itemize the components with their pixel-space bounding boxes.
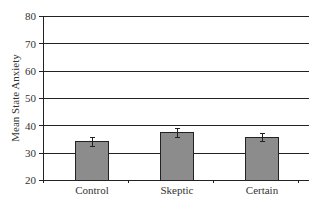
error-bar-cap: [260, 133, 265, 134]
error-bar-skeptic: [177, 128, 178, 136]
y-tick-label-80: 80: [14, 10, 36, 22]
x-tick: [213, 180, 214, 183]
x-tick: [128, 180, 129, 183]
gridline-80: [43, 16, 309, 17]
y-tick-40: [39, 125, 44, 126]
error-bar-cap: [175, 128, 180, 129]
bar-skeptic: [160, 132, 194, 181]
error-bar-cap: [175, 137, 180, 138]
error-bar-cap: [90, 146, 95, 147]
x-tick: [298, 180, 299, 183]
y-tick-80: [39, 16, 44, 17]
y-tick-label-30: 30: [14, 147, 36, 159]
y-tick-label-40: 40: [14, 120, 36, 132]
x-label-skeptic: Skeptic: [137, 184, 217, 196]
y-tick-60: [39, 71, 44, 72]
y-tick-label-20: 20: [14, 174, 36, 186]
gridline-60: [43, 71, 309, 72]
gridline-70: [43, 43, 309, 44]
y-tick-label-50: 50: [14, 92, 36, 104]
x-label-control: Control: [52, 184, 132, 196]
y-tick-label-60: 60: [14, 65, 36, 77]
error-bar-control: [92, 137, 93, 145]
y-tick-label-70: 70: [14, 38, 36, 50]
error-bar-cap: [90, 137, 95, 138]
y-tick-70: [39, 43, 44, 44]
x-tick: [43, 180, 44, 183]
x-label-certain: Certain: [222, 184, 302, 196]
error-bar-cap: [260, 141, 265, 142]
gridline-50: [43, 98, 309, 99]
gridline-40: [43, 125, 309, 126]
bar-certain: [245, 137, 279, 181]
bar-control: [75, 141, 109, 181]
error-bar-certain: [262, 133, 263, 141]
y-tick-30: [39, 153, 44, 154]
y-tick-50: [39, 98, 44, 99]
